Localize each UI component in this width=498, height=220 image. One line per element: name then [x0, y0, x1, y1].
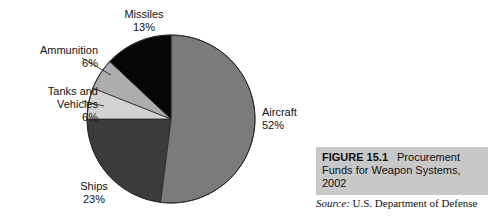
pie-label-tanks-name-line1: Tanks and [6, 85, 98, 98]
pie-label-aircraft: Aircraft 52% [262, 106, 334, 132]
pie-label-tanks-name-line2: Vehicles [6, 98, 98, 111]
figure-number: FIGURE 15.1 [322, 151, 388, 163]
pie-label-tanks-and-vehicles: Tanks and Vehicles 6% [6, 85, 98, 124]
pie-label-ships-percent: 23% [58, 193, 130, 206]
pie-label-ammunition-name: Ammunition [6, 44, 98, 57]
pie-label-ships-name: Ships [58, 180, 130, 193]
source-keyword: Source: [316, 197, 350, 209]
pie-slice-aircraft [160, 35, 255, 203]
source-note: Source: U.S. Department of Defense [316, 197, 498, 210]
figure-container: Missiles 13% Ammunition 6% Tanks and Veh… [0, 0, 498, 220]
pie-label-ammunition-percent: 6% [6, 57, 98, 70]
pie-label-missiles-percent: 13% [108, 21, 180, 34]
pie-label-ships: Ships 23% [58, 180, 130, 206]
pie-label-ammunition: Ammunition 6% [6, 44, 98, 70]
figure-caption: FIGURE 15.1Procurement Funds for Weapon … [316, 147, 488, 195]
pie-label-tanks-percent: 6% [6, 111, 98, 124]
source-text: U.S. Department of Defense [353, 197, 478, 209]
pie-label-aircraft-name: Aircraft [262, 106, 334, 119]
pie-label-missiles: Missiles 13% [108, 8, 180, 34]
pie-slice-group [87, 35, 255, 203]
pie-label-missiles-name: Missiles [108, 8, 180, 21]
pie-label-aircraft-percent: 52% [262, 119, 334, 132]
